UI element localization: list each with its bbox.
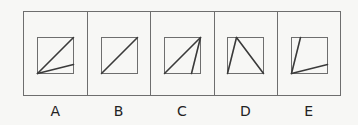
- option-cell-e[interactable]: [292, 38, 328, 74]
- option-cell-d[interactable]: [228, 38, 264, 74]
- option-label-c: C: [172, 103, 192, 119]
- inner-square: [292, 38, 328, 74]
- diagonal-line: [292, 38, 301, 74]
- option-label-d: D: [235, 103, 255, 119]
- outer-frame: [24, 12, 341, 96]
- option-label-a: A: [45, 103, 65, 119]
- option-label-b: B: [109, 103, 129, 119]
- inner-square: [228, 38, 264, 74]
- option-cell-c[interactable]: [165, 38, 201, 74]
- diagonal-line: [38, 38, 74, 74]
- diagonal-line: [165, 38, 201, 74]
- option-label-e: E: [299, 103, 319, 119]
- diagonal-line: [292, 65, 328, 74]
- diagonal-line: [237, 38, 264, 74]
- option-cell-a[interactable]: [38, 38, 74, 74]
- option-cells: [38, 38, 328, 74]
- diagonal-line: [228, 38, 237, 74]
- option-cell-b[interactable]: [102, 38, 138, 74]
- diagonal-line: [102, 38, 138, 74]
